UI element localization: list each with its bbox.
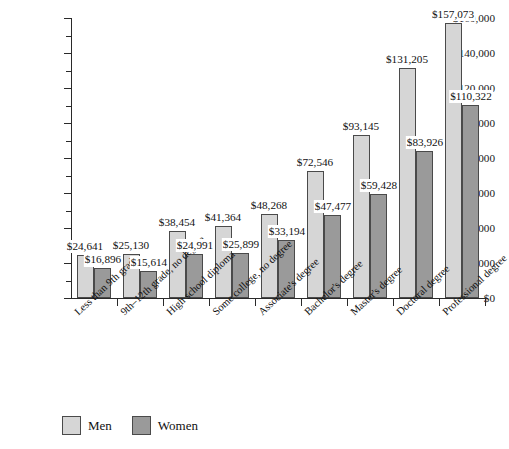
bar-value-label-women: $59,428 <box>360 179 398 192</box>
bar-value-label-men: $38,454 <box>158 216 196 229</box>
bar-value-label-men: $93,145 <box>342 120 380 133</box>
x-axis-tick <box>255 298 256 306</box>
x-axis-tick <box>347 298 348 306</box>
y-axis-tick <box>64 298 72 299</box>
legend-swatch-women <box>132 416 151 435</box>
bar-value-label-men: $131,205 <box>385 53 429 66</box>
legend-label: Men <box>88 419 112 432</box>
bar-value-label-men: $157,073 <box>431 8 475 21</box>
bar-group <box>445 18 479 298</box>
bar-value-label-women: $15,614 <box>130 256 168 269</box>
legend-item[interactable]: Men <box>62 416 112 435</box>
x-axis-tick <box>485 298 486 306</box>
x-axis-tick <box>117 298 118 306</box>
bar-value-label-women: $33,194 <box>268 225 306 238</box>
legend-label: Women <box>158 419 198 432</box>
x-axis-tick <box>439 298 440 306</box>
bar-group <box>353 18 387 298</box>
legend-item[interactable]: Women <box>132 416 198 435</box>
bar-women[interactable] <box>462 105 479 298</box>
bar-men[interactable] <box>445 23 462 298</box>
bar-value-label-women: $16,896 <box>84 253 122 266</box>
legend-swatch-men <box>62 416 81 435</box>
x-axis-tick <box>163 298 164 306</box>
chart-legend: MenWomen <box>62 416 198 435</box>
bar-value-label-men: $25,130 <box>112 239 150 252</box>
bar-value-label-women: $24,991 <box>176 239 214 252</box>
x-axis-tick <box>209 298 210 306</box>
x-axis-tick <box>301 298 302 306</box>
bar-value-label-men: $24,641 <box>66 240 104 253</box>
x-axis-tick <box>393 298 394 306</box>
bar-men[interactable] <box>399 68 416 298</box>
bar-value-label-men: $72,546 <box>296 156 334 169</box>
bar-value-label-women: $25,899 <box>222 238 260 251</box>
bar-value-label-women: $83,926 <box>406 136 444 149</box>
bar-men[interactable] <box>307 171 324 298</box>
bar-value-label-men: $41,364 <box>204 211 242 224</box>
bar-value-label-women: $110,322 <box>449 90 493 103</box>
bar-value-label-women: $47,477 <box>314 200 352 213</box>
bar-value-label-men: $48,268 <box>250 199 288 212</box>
